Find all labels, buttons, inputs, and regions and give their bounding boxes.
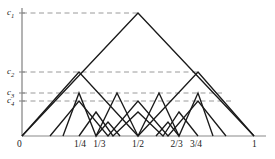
x-label-1-2: 1/2 (132, 140, 144, 150)
x-label-one: 1 (252, 140, 257, 150)
tent-polyline-0 (22, 13, 254, 136)
y-label-sub-c1: 1 (11, 12, 14, 19)
y-label-sub-c2: 2 (11, 71, 14, 78)
x-label-3-4: 3/4 (190, 140, 202, 150)
x-label-zero: 0 (17, 140, 22, 150)
x-label-2-3: 2/3 (171, 140, 183, 150)
tent-polyline-4 (63, 93, 213, 136)
figure-container: c1c2c3c4 01/41/31/22/33/41 (0, 0, 275, 159)
y-label-c4: c4 (7, 96, 14, 107)
y-label-c2: c2 (7, 67, 14, 78)
x-label-1-4: 1/4 (74, 140, 86, 150)
tent-map-plot (0, 0, 275, 159)
y-label-sub-c4: 4 (11, 100, 14, 107)
x-label-1-3: 1/3 (93, 140, 105, 150)
tent-polyline-3 (50, 101, 226, 136)
y-label-c1: c1 (7, 8, 14, 19)
tent-curves (22, 13, 254, 136)
dashed-level-lines (22, 13, 232, 101)
tent-polyline-1 (22, 72, 138, 136)
